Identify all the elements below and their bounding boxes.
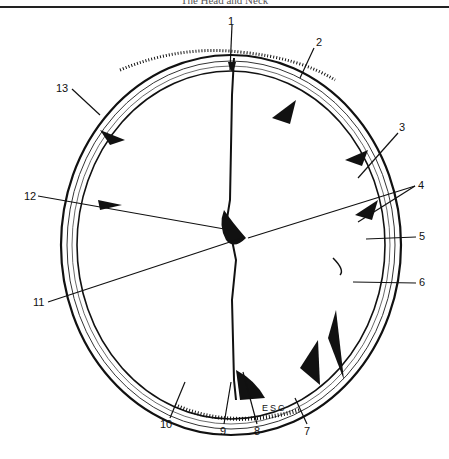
label-2: 2 [316,37,322,48]
label-7: 7 [304,426,310,437]
label-10: 10 [160,419,172,430]
label-3: 3 [399,122,405,133]
label-8: 8 [254,426,260,437]
label-4: 4 [418,180,424,191]
esc-label: ESC [262,403,287,414]
label-6: 6 [419,277,425,288]
label-5: 5 [419,231,425,242]
label-1: 1 [228,16,234,27]
skull-section-illustration [0,0,449,459]
label-12: 12 [24,191,36,202]
confluence-shape [221,210,246,245]
label-13: 13 [56,83,68,94]
label-11: 11 [33,297,44,308]
label-9: 9 [220,426,226,437]
